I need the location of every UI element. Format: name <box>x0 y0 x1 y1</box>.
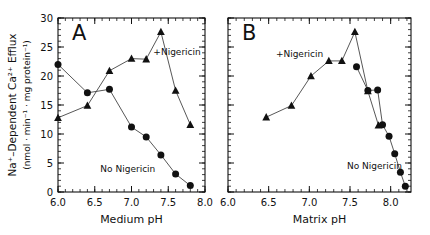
x-axis-title-B: Matrix pH <box>293 213 346 226</box>
data-point-circle <box>353 63 360 70</box>
x-tick-label: 8.0 <box>197 197 213 208</box>
x-tick-label: 6.0 <box>220 197 236 208</box>
series-line-A-nigericin <box>58 32 190 125</box>
y-tick-label: 15 <box>40 100 53 111</box>
series-line-B-nigericin <box>266 32 378 125</box>
y-axis-title-line2: (nmol · min⁻¹ · mg protein⁻¹) <box>22 40 32 170</box>
data-point-circle <box>172 171 179 178</box>
figure-svg: 6.06.57.07.58.0051015202530Medium pHA+Ni… <box>0 0 430 235</box>
y-axis-title-line1: Na⁺–Dependent Ca²⁺ Efflux <box>6 33 18 176</box>
y-tick-label: 25 <box>40 42 53 53</box>
data-point-circle <box>157 151 164 158</box>
data-point-circle <box>106 86 113 93</box>
x-tick-label: 7.5 <box>342 197 358 208</box>
y-tick-label: 20 <box>40 71 53 82</box>
data-point-triangle <box>54 114 62 121</box>
data-point-triangle <box>351 28 359 35</box>
data-point-circle <box>143 133 150 140</box>
data-point-triangle <box>172 86 180 93</box>
panel-B: 6.06.57.07.58.0Matrix pHB+NigericinNo Ni… <box>220 18 411 226</box>
y-tick-label: 5 <box>47 158 53 169</box>
data-point-circle <box>379 121 386 128</box>
y-tick-label: 30 <box>40 13 53 24</box>
data-point-triangle <box>288 101 296 108</box>
data-point-circle <box>391 150 398 157</box>
x-axis-title-A: Medium pH <box>100 213 163 226</box>
data-point-triangle <box>84 101 92 108</box>
data-point-triangle <box>262 113 270 120</box>
x-tick-label: 6.5 <box>87 197 103 208</box>
panel-A: 6.06.57.07.58.0051015202530Medium pHA+Ni… <box>40 13 213 226</box>
x-tick-label: 7.0 <box>124 197 140 208</box>
x-tick-label: 8.0 <box>383 197 399 208</box>
data-point-circle <box>374 86 381 93</box>
data-point-circle <box>386 133 393 140</box>
x-tick-label: 6.0 <box>50 197 66 208</box>
series-annotation-nigericin-A: +Nigericin <box>153 47 200 57</box>
data-point-circle <box>402 183 409 190</box>
data-point-triangle <box>106 67 114 74</box>
x-tick-label: 7.0 <box>301 197 317 208</box>
data-point-circle <box>128 124 135 131</box>
x-tick-label: 7.5 <box>160 197 176 208</box>
series-annotation-nigericin-B: +Nigericin <box>276 49 323 59</box>
data-point-triangle <box>186 121 194 128</box>
data-point-triangle <box>307 72 315 79</box>
data-point-circle <box>84 89 91 96</box>
x-tick-label: 6.5 <box>261 197 277 208</box>
data-point-circle <box>187 182 194 189</box>
data-point-triangle <box>128 55 136 62</box>
data-point-circle <box>364 87 371 94</box>
y-tick-label: 0 <box>47 187 53 198</box>
series-annotation-no-nigericin-A: No Nigericin <box>100 164 155 174</box>
series-annotation-no-nigericin-B: No Nigericin <box>347 161 402 171</box>
y-tick-label: 10 <box>40 129 53 140</box>
figure-container: 6.06.57.07.58.0051015202530Medium pHA+Ni… <box>0 0 430 235</box>
data-point-circle <box>55 61 62 68</box>
data-point-triangle <box>157 28 165 35</box>
panel-letter-B: B <box>242 21 256 45</box>
panel-letter-A: A <box>72 21 87 45</box>
